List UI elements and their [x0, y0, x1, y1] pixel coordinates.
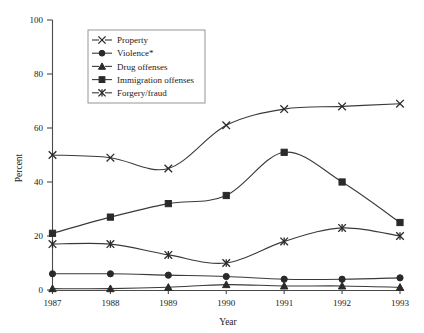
x-axis: 1987198819891990199119921993 Year [44, 291, 410, 328]
x-tick-label: 1987 [44, 298, 63, 308]
marker-square [281, 149, 287, 155]
y-tick-label: 40 [34, 177, 44, 187]
marker-circle [49, 271, 55, 277]
legend-label: Property [117, 35, 148, 45]
line-chart: 020406080100 Percent 1987198819891990199… [0, 0, 424, 333]
marker-square [223, 192, 229, 198]
marker-asterisk [280, 238, 288, 246]
marker-square [165, 201, 171, 207]
series-property [49, 100, 404, 172]
chart-legend: PropertyViolence*Drug offensesImmigratio… [88, 30, 205, 103]
series-immigration-offenses [49, 149, 403, 236]
marker-square [397, 219, 403, 225]
y-tick-label: 0 [39, 285, 44, 295]
marker-square [99, 77, 105, 83]
series-layer [49, 100, 404, 292]
marker-circle [223, 273, 229, 279]
marker-square [339, 179, 345, 185]
x-axis-title: Year [219, 317, 237, 327]
marker-circle [99, 50, 105, 56]
x-tick-label: 1988 [101, 298, 120, 308]
x-tick-label: 1990 [217, 298, 236, 308]
series-forgery-fraud [49, 224, 404, 267]
chart-container: 020406080100 Percent 1987198819891990199… [0, 0, 424, 333]
y-tick-label: 60 [34, 123, 44, 133]
y-tick-label: 100 [30, 15, 44, 25]
marker-square [49, 230, 55, 236]
x-tick-label: 1992 [333, 298, 351, 308]
marker-circle [397, 275, 403, 281]
legend-label: Immigration offenses [117, 75, 195, 85]
marker-circle [165, 272, 171, 278]
y-axis-title: Percent [14, 153, 24, 182]
y-tick-label: 80 [34, 69, 44, 79]
x-tick-label: 1989 [159, 298, 178, 308]
marker-circle [107, 271, 113, 277]
series-line [53, 228, 401, 264]
x-tick-label: 1993 [391, 298, 410, 308]
x-tick-label: 1991 [275, 298, 293, 308]
x-tick-group: 1987198819891990199119921993 [44, 291, 410, 309]
series-line [53, 104, 401, 170]
legend-label: Drug offenses [117, 62, 168, 72]
y-tick-label: 20 [34, 231, 44, 241]
legend-label: Forgery/fraud [117, 88, 167, 98]
legend-label: Violence* [117, 48, 154, 58]
marker-square [107, 214, 113, 220]
y-tick-group: 020406080100 [30, 15, 53, 295]
y-axis: 020406080100 Percent [14, 15, 53, 295]
